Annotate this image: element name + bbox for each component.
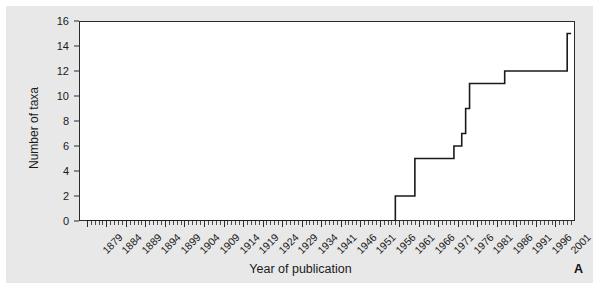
x-tick-label: 1914 xyxy=(236,231,261,256)
x-tick-label: 1981 xyxy=(490,231,515,256)
x-tick-label: 1934 xyxy=(314,231,339,256)
x-axis-title: Year of publication xyxy=(0,262,601,276)
x-tick-label: 1924 xyxy=(275,231,300,256)
x-tick-label: 1951 xyxy=(373,231,398,256)
x-tick-label: 1946 xyxy=(353,231,378,256)
x-tick-label: 1929 xyxy=(295,231,320,256)
x-tick-label: 1971 xyxy=(451,231,476,256)
x-tick-label: 1956 xyxy=(393,231,418,256)
x-tick-label: 1909 xyxy=(217,231,242,256)
x-tick-label: 1884 xyxy=(119,231,144,256)
x-tick-label: 2001 xyxy=(568,231,593,256)
figure-panel-a: 0246810121416 Number of taxa 18791884188… xyxy=(0,0,601,293)
x-tick-label: 1966 xyxy=(432,231,457,256)
x-tick-label: 1919 xyxy=(256,231,281,256)
x-axis-tick-labels: 1879188418891894189919041909191419191924… xyxy=(0,0,601,293)
x-tick-label: 1991 xyxy=(529,231,554,256)
x-tick-label: 1941 xyxy=(334,231,359,256)
panel-label: A xyxy=(574,262,583,276)
x-tick-label: 1904 xyxy=(197,231,222,256)
x-tick-label: 1961 xyxy=(412,231,437,256)
x-tick-label: 1894 xyxy=(158,231,183,256)
